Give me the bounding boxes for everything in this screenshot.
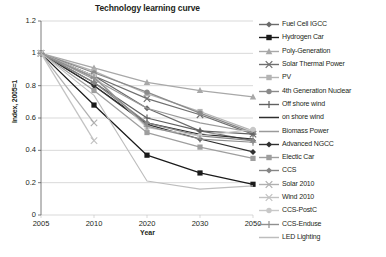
- legend-item-advanced-ngcc[interactable]: Advanced NGCC: [258, 137, 386, 150]
- legend-item-led-lighting[interactable]: LED Lighting: [258, 230, 386, 243]
- y-axis-label: Index, 2005=1: [11, 67, 18, 137]
- legend-label: 4th Generation Nuclear: [280, 87, 351, 94]
- series-solar-2010: [38, 50, 97, 126]
- data-point-marker: [91, 102, 96, 107]
- data-point-marker: [250, 149, 256, 155]
- legend-label: LED Lighting: [280, 233, 320, 240]
- legend-marker-icon: [258, 137, 280, 150]
- legend-label: CCS: [280, 166, 296, 173]
- legend-marker-icon: [258, 84, 280, 97]
- data-point-marker: [91, 137, 97, 143]
- legend-label: Fuel Cell IGCC: [280, 20, 327, 27]
- legend-marker-icon: [258, 230, 280, 243]
- legend-label: Electic Car: [280, 153, 314, 160]
- data-point-marker: [266, 221, 273, 228]
- legend-label: CCS-PostC: [280, 206, 317, 213]
- data-point-marker: [144, 90, 149, 95]
- data-point-marker: [144, 95, 150, 101]
- legend-label: Solar Thermal Power: [280, 60, 345, 67]
- data-point-marker: [91, 88, 96, 93]
- x-tick-label: 2030: [180, 219, 220, 228]
- series-layer: [38, 50, 257, 189]
- legend-item-off-shore-wind[interactable]: Off shore wind: [258, 97, 386, 110]
- legend-marker-icon: [258, 17, 280, 30]
- legend-item-4th-generation-nuclear[interactable]: 4th Generation Nuclear: [258, 83, 386, 96]
- data-point-marker: [250, 127, 255, 132]
- y-tick-label: 0.2: [10, 178, 36, 187]
- legend-item-ccs[interactable]: CCS: [258, 163, 386, 176]
- legend-marker-icon: [258, 190, 280, 203]
- data-point-marker: [266, 208, 271, 213]
- series-line: [41, 53, 94, 123]
- legend-item-poly-generation[interactable]: Poly-Generation: [258, 44, 386, 57]
- legend-item-biomass-power[interactable]: Biomass Power: [258, 123, 386, 136]
- y-tick-label: 0.4: [10, 145, 36, 154]
- data-point-marker: [144, 153, 149, 158]
- legend-item-on-shore-wind[interactable]: on shore wind: [258, 110, 386, 123]
- legend-label: PV: [280, 73, 291, 80]
- data-point-marker: [197, 145, 202, 150]
- legend-marker-icon: [258, 57, 280, 70]
- data-point-marker: [266, 75, 271, 80]
- data-point-marker: [266, 168, 272, 174]
- chart-figure: Technology learning curve 00.20.40.60.81…: [0, 0, 386, 257]
- legend-marker-icon: [258, 70, 280, 83]
- legend-item-pv[interactable]: PV: [258, 70, 386, 83]
- legend-item-solar-thermal-power[interactable]: Solar Thermal Power: [258, 57, 386, 70]
- plot-area: 00.20.40.60.811.2 20052010202020302050 I…: [0, 0, 270, 257]
- data-point-marker: [197, 170, 202, 175]
- legend-label: Solar 2010: [280, 180, 314, 187]
- x-tick-label: 2005: [21, 219, 61, 228]
- legend-label: Biomass Power: [280, 127, 329, 134]
- legend-marker-icon: [258, 44, 280, 57]
- legend-item-fuel-cell-igcc[interactable]: Fuel Cell IGCC: [258, 17, 386, 30]
- data-point-marker: [266, 22, 272, 28]
- x-tick-label: 2010: [74, 219, 114, 228]
- data-point-marker: [144, 130, 149, 135]
- legend-label: CCS-Enduse: [280, 220, 321, 227]
- legend-marker-icon: [258, 124, 280, 137]
- data-point-marker: [266, 88, 271, 93]
- legend-item-ccs-enduse[interactable]: CCS-Enduse: [258, 216, 386, 229]
- legend-marker-icon: [258, 217, 280, 230]
- data-point-marker: [197, 111, 202, 116]
- legend-marker-icon: [258, 177, 280, 190]
- y-tick-label: 1: [10, 48, 36, 57]
- y-tick-label: 1.2: [10, 16, 36, 25]
- legend-item-electic-car[interactable]: Electic Car: [258, 150, 386, 163]
- legend-label: Hydrogen Car: [280, 33, 324, 40]
- legend-label: Poly-Generation: [280, 47, 330, 54]
- legend-item-solar-2010[interactable]: Solar 2010: [258, 177, 386, 190]
- legend-label: Off shore wind: [280, 100, 325, 107]
- data-point-marker: [266, 101, 273, 108]
- legend-marker-icon: [258, 203, 280, 216]
- y-tick-label: 0: [10, 210, 36, 219]
- data-point-marker: [250, 156, 255, 161]
- x-axis-label: Year: [40, 229, 255, 236]
- data-point-marker: [266, 35, 271, 40]
- chart-legend: Fuel Cell IGCCHydrogen CarPoly-Generatio…: [258, 17, 386, 243]
- legend-marker-icon: [258, 97, 280, 110]
- legend-label: Wind 2010: [280, 193, 314, 200]
- legend-marker-icon: [258, 163, 280, 176]
- legend-marker-icon: [258, 150, 280, 163]
- x-tick-label: 2020: [127, 219, 167, 228]
- data-point-marker: [266, 141, 272, 147]
- data-point-marker: [266, 155, 271, 160]
- legend-label: Advanced NGCC: [280, 140, 334, 147]
- legend-item-wind-2010[interactable]: Wind 2010: [258, 190, 386, 203]
- data-point-marker: [91, 120, 97, 126]
- legend-item-hydrogen-car[interactable]: Hydrogen Car: [258, 30, 386, 43]
- legend-label: on shore wind: [280, 113, 324, 120]
- legend-item-ccs-postc[interactable]: CCS-PostC: [258, 203, 386, 216]
- legend-marker-icon: [258, 110, 280, 123]
- legend-marker-icon: [258, 30, 280, 43]
